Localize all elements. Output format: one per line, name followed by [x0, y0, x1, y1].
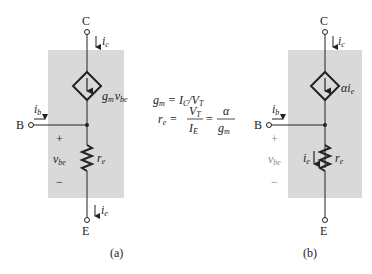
- caption-a: (a): [110, 246, 123, 260]
- vbe-plus-b: +: [271, 132, 278, 146]
- vbe-minus-b: −: [271, 175, 278, 189]
- emitter-label-b: E: [320, 224, 327, 238]
- collector-terminal-a: [85, 30, 90, 35]
- base-terminal-b: [267, 123, 272, 128]
- base-label-a: B: [16, 118, 24, 132]
- base-terminal-a: [29, 123, 34, 128]
- base-current-label-b: ib: [272, 102, 279, 117]
- emitter-current-label-a: ie: [101, 203, 108, 218]
- equation-re-lhs: re=: [158, 112, 177, 127]
- vbe-plus-a: +: [56, 132, 63, 146]
- diagram-canvas: C ic gmvbe B ib re + vbe − ie E (a) g: [0, 0, 372, 274]
- base-label-b: B: [254, 118, 262, 132]
- collector-current-label-b: ic: [338, 34, 345, 49]
- emitter-terminal-a: [85, 218, 90, 223]
- vbe-minus-a: −: [56, 175, 63, 189]
- equation-re-eq2: =: [206, 112, 213, 126]
- vbe-label-b: vbe: [268, 152, 281, 167]
- equation-re-num2: α: [223, 104, 230, 118]
- emitter-terminal-b: [323, 218, 328, 223]
- panel-a: C ic gmvbe B ib re + vbe − ie E (a): [16, 14, 128, 260]
- equations: gm= IC/VT re= VT IE = α gm: [153, 93, 235, 136]
- source-label-a: gmvbe: [102, 89, 128, 104]
- collector-label-b: C: [320, 14, 328, 28]
- collector-label-a: C: [82, 14, 90, 28]
- caption-b: (b): [303, 246, 317, 260]
- equation-re-den2: gm: [218, 121, 230, 136]
- collector-current-label-a: ic: [102, 34, 109, 49]
- collector-terminal-b: [323, 30, 328, 35]
- equation-re-den: IE: [188, 121, 198, 136]
- emitter-label-a: E: [82, 224, 89, 238]
- base-current-label-a: ib: [34, 102, 41, 117]
- panel-b: C ic αie B ib re ie + vbe − E (b): [254, 14, 362, 260]
